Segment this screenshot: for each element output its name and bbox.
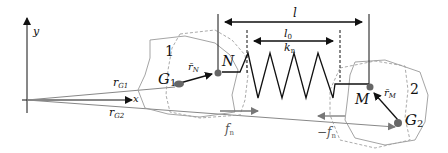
n-label: N bbox=[222, 54, 234, 68]
m-label: M bbox=[355, 92, 369, 106]
y-axis-label: y bbox=[33, 26, 39, 37]
r-n-label: r̄N bbox=[188, 62, 199, 74]
g1-label: G1 bbox=[158, 72, 176, 88]
body-2-label: 2 bbox=[410, 82, 419, 96]
r-m-label: r̄M bbox=[384, 88, 396, 100]
stiffness-label: kn bbox=[284, 42, 295, 55]
neg-fn-label: −fn bbox=[317, 126, 336, 140]
diagram-canvas bbox=[0, 0, 448, 153]
g2-label: G2 bbox=[405, 113, 423, 129]
body-1-dashed bbox=[166, 30, 248, 118]
length-label: l bbox=[293, 7, 297, 19]
r-n-vector bbox=[180, 74, 212, 83]
spring bbox=[222, 53, 369, 98]
fn-label: fn bbox=[225, 123, 234, 137]
body-1-outline bbox=[138, 36, 238, 117]
r-g1-vector bbox=[27, 87, 175, 100]
n-point bbox=[215, 70, 222, 77]
rest-length-label: l0 bbox=[284, 28, 292, 41]
r-g2-label: rG2 bbox=[109, 107, 124, 120]
r-g2-vector bbox=[27, 100, 395, 127]
body-1-label: 1 bbox=[165, 44, 174, 58]
m-point bbox=[367, 84, 374, 91]
body-2-dashed bbox=[330, 61, 410, 148]
r-g1-label: rG1 bbox=[113, 77, 128, 90]
g2-point bbox=[394, 119, 402, 127]
x-axis-label: x bbox=[133, 94, 139, 104]
